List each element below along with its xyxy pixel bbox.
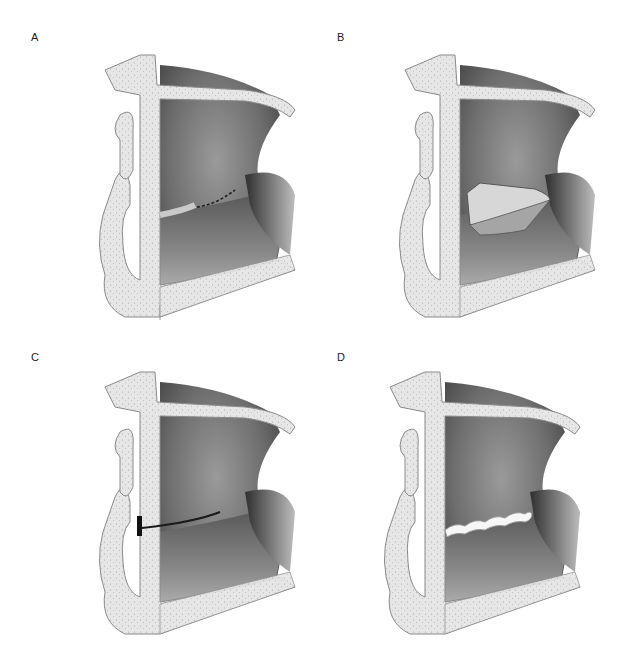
panel-c: C (0, 330, 300, 650)
panel-b: B (310, 0, 610, 320)
sinus-illustration (0, 0, 300, 320)
panel-d: D (310, 330, 610, 650)
slit-opening (137, 516, 142, 536)
sinus-illustration (310, 330, 610, 650)
panel-a: A (0, 0, 300, 320)
sinus-illustration (0, 330, 300, 650)
sinus-illustration (310, 0, 610, 320)
